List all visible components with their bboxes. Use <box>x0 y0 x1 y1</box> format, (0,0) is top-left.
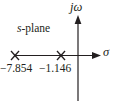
s-plane-annotation-rest: -plane <box>21 22 50 34</box>
imaginary-axis-arrowhead <box>75 15 82 24</box>
pole-value-label-0: −7.854 <box>0 63 32 75</box>
s-plane-annotation: s-plane <box>17 23 50 35</box>
s-plane-pole-plot: s-plane jω σ −7.854 −1.146 <box>0 0 118 103</box>
pole-zero-diagram <box>0 0 118 103</box>
real-axis-arrowhead <box>92 52 101 59</box>
imaginary-axis-label: jω <box>70 1 82 14</box>
pole-value-label-1: −1.146 <box>39 63 71 75</box>
real-axis-label: σ <box>103 46 109 59</box>
